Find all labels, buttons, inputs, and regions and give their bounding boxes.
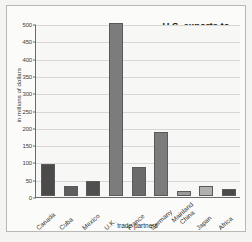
y-tick-label: 50	[26, 178, 32, 184]
y-tick-label: 350	[23, 74, 32, 80]
bar[interactable]	[41, 164, 55, 196]
y-tick-label: 400	[23, 57, 32, 63]
y-tick-label: 100	[23, 160, 32, 166]
bar-slot	[127, 25, 150, 196]
y-tick-label: 250	[23, 109, 32, 115]
bar[interactable]	[222, 189, 236, 196]
y-tick-label: 150	[23, 143, 32, 149]
bar[interactable]	[154, 132, 168, 196]
y-tick-mark	[33, 42, 36, 43]
bar[interactable]	[177, 191, 191, 196]
y-tick-label: 450	[23, 39, 32, 45]
bar-slot	[82, 25, 105, 196]
bar-slot	[218, 25, 241, 196]
bar-series	[37, 25, 240, 196]
bar[interactable]	[109, 23, 123, 196]
y-tick-mark	[33, 146, 36, 147]
bar-slot	[172, 25, 195, 196]
y-tick-mark	[33, 25, 36, 26]
y-tick-mark	[33, 180, 36, 181]
y-tick-mark	[33, 128, 36, 129]
y-tick-label: 0	[29, 195, 32, 201]
bar[interactable]	[199, 186, 213, 196]
screenshot-root: U.S. exports to principal trade partners…	[0, 0, 252, 242]
plot-panel: 050100150200250300350400450500	[35, 20, 240, 199]
bar[interactable]	[64, 186, 78, 196]
gridline	[36, 198, 240, 199]
y-tick-mark	[33, 163, 36, 164]
plot-area: 050100150200250300350400450500	[35, 25, 240, 198]
bar-slot	[105, 25, 128, 196]
y-tick-mark	[33, 198, 36, 199]
x-axis-title: trade partners	[35, 222, 240, 229]
y-tick-mark	[33, 111, 36, 112]
bar-slot	[195, 25, 218, 196]
y-tick-label: 200	[23, 126, 32, 132]
bar-slot	[37, 25, 60, 196]
y-tick-mark	[33, 94, 36, 95]
chart-figure-frame: U.S. exports to principal trade partners…	[6, 5, 246, 232]
bar[interactable]	[132, 167, 146, 196]
bar-slot	[150, 25, 173, 196]
y-tick-mark	[33, 59, 36, 60]
y-tick-label: 300	[23, 91, 32, 97]
y-tick-mark	[33, 76, 36, 77]
bar-slot	[60, 25, 83, 196]
y-tick-label: 500	[23, 22, 32, 28]
bar[interactable]	[86, 181, 100, 196]
